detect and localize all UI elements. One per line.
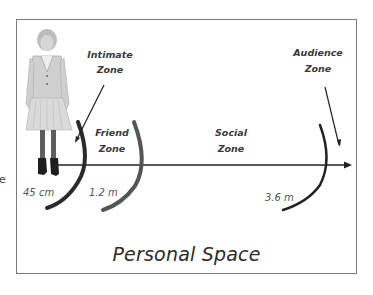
intimate-distance-label: 45 cm xyxy=(23,187,54,198)
audience-zone-label-line1: Audience xyxy=(292,47,343,58)
audience-zone-label-line2: Zone xyxy=(304,63,332,74)
friend-zone-label-line2: Zone xyxy=(98,143,126,154)
social-distance-label: 3.6 m xyxy=(265,192,294,203)
diagram-title: Personal Space xyxy=(0,243,373,265)
distance-axis xyxy=(52,162,352,169)
woman-figure xyxy=(26,29,72,176)
social-zone-label-line1: Social xyxy=(215,127,248,138)
intimate-zone-label-line1: Intimate xyxy=(87,49,133,60)
friend-zone-label-line1: Friend xyxy=(95,127,129,138)
social-zone-label-line2: Zone xyxy=(217,143,245,154)
intimate-zone-label-line2: Zone xyxy=(96,64,124,75)
friend-distance-label: 1.2 m xyxy=(89,187,118,198)
audience-zone-pointer xyxy=(325,87,339,145)
axis-arrowhead-icon xyxy=(344,162,352,169)
